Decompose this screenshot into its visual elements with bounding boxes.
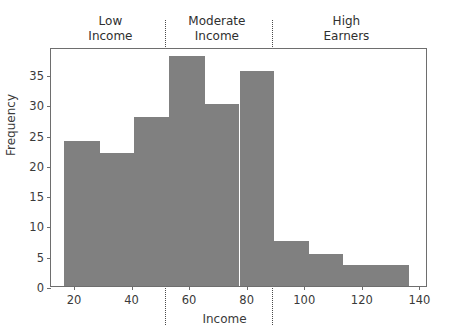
y-axis-tick-label: 35 — [29, 69, 44, 83]
y-axis-tick-label: 5 — [37, 251, 44, 265]
histogram-bar — [309, 254, 344, 286]
histogram-bar — [100, 153, 135, 286]
histogram-bar — [64, 141, 100, 286]
plot-area: 0510152025303520406080100120140 — [50, 48, 427, 287]
region-label-low-income: Low Income — [88, 14, 132, 44]
x-axis-tick-label: 20 — [67, 293, 82, 307]
y-axis-title: Frequency — [4, 65, 18, 185]
y-axis-tick — [47, 106, 51, 107]
region-label-line1: Low — [88, 14, 132, 29]
histogram-bar — [205, 104, 240, 286]
y-axis-tick — [47, 288, 51, 289]
y-axis-tick — [47, 167, 51, 168]
x-axis-tick — [189, 286, 190, 290]
x-axis-tick — [132, 286, 133, 290]
y-axis-tick-label: 15 — [29, 190, 44, 204]
region-label-moderate-income: Moderate Income — [188, 14, 245, 44]
histogram-bar — [134, 117, 169, 286]
x-axis-tick — [419, 286, 420, 290]
y-axis-tick — [47, 76, 51, 77]
y-axis-tick-label: 30 — [29, 99, 44, 113]
region-label-high-earners: High Earners — [323, 14, 369, 44]
x-axis-tick-label: 60 — [182, 293, 197, 307]
x-axis-tick-label: 80 — [239, 293, 254, 307]
x-axis-tick — [304, 286, 305, 290]
region-label-line2: Earners — [323, 29, 369, 44]
y-axis-tick — [47, 258, 51, 259]
region-label-line1: High — [323, 14, 369, 29]
y-axis-tick-label: 10 — [29, 220, 44, 234]
histogram-bar — [169, 56, 205, 286]
y-axis-tick-label: 25 — [29, 130, 44, 144]
x-axis-tick-label: 100 — [293, 293, 315, 307]
x-axis-tick-label: 140 — [408, 293, 430, 307]
histogram-bar — [274, 241, 309, 286]
histogram-bar — [240, 71, 275, 286]
histogram-bar — [343, 265, 409, 286]
x-axis-tick-label: 40 — [124, 293, 139, 307]
region-label-line1: Moderate — [188, 14, 245, 29]
y-axis-tick — [47, 197, 51, 198]
x-axis-tick — [74, 286, 75, 290]
x-axis-tick — [362, 286, 363, 290]
y-axis-tick-label: 20 — [29, 160, 44, 174]
x-axis-tick-label: 120 — [351, 293, 373, 307]
region-label-line2: Income — [88, 29, 132, 44]
region-label-line2: Income — [188, 29, 245, 44]
x-axis-tick — [247, 286, 248, 290]
histogram-figure: Low Income Moderate Income High Earners … — [0, 0, 449, 335]
y-axis-tick — [47, 137, 51, 138]
x-axis-title: Income — [0, 312, 449, 326]
y-axis-tick — [47, 227, 51, 228]
y-axis-tick-label: 0 — [37, 281, 44, 295]
